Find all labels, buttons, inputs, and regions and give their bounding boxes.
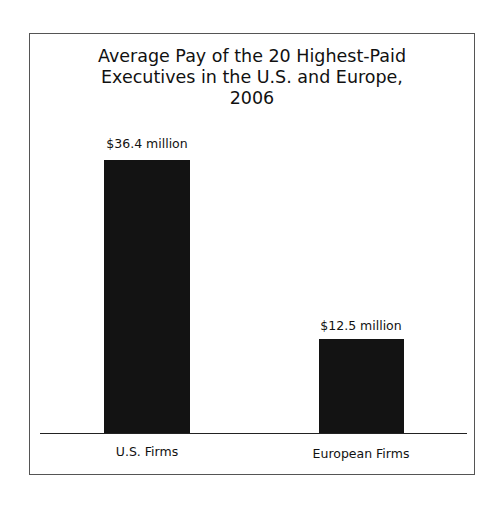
chart-title: Average Pay of the 20 Highest-Paid Execu… bbox=[30, 46, 474, 109]
value-label-us: $36.4 million bbox=[67, 136, 227, 151]
chart-frame: Average Pay of the 20 Highest-Paid Execu… bbox=[29, 33, 475, 475]
category-label-europe: European Firms bbox=[271, 446, 451, 461]
category-label-us: U.S. Firms bbox=[57, 444, 237, 459]
chart-title-line-3: 2006 bbox=[30, 88, 474, 109]
chart-title-line-1: Average Pay of the 20 Highest-Paid bbox=[30, 46, 474, 67]
value-label-europe: $12.5 million bbox=[281, 318, 441, 333]
x-axis-line bbox=[40, 433, 467, 434]
bar-us-firms bbox=[104, 160, 190, 433]
chart-title-line-2: Executives in the U.S. and Europe, bbox=[30, 67, 474, 88]
bar-european-firms bbox=[319, 339, 404, 433]
